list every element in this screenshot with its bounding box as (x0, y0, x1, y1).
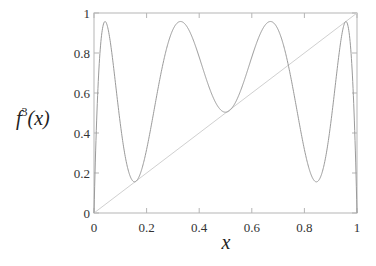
x-axis-ticks: 00.20.40.60.81 (91, 13, 361, 235)
y-tick-label: 0.8 (74, 46, 90, 61)
x-tick-label: 1 (354, 220, 361, 235)
identity-line (94, 13, 357, 213)
y-axis-label: f3(x) (16, 105, 50, 130)
x-axis-label: x (221, 231, 231, 253)
x-tick-label: 0 (91, 220, 98, 235)
x-tick-label: 0.2 (138, 220, 154, 235)
y-tick-label: 0.4 (74, 126, 91, 141)
y-axis-label-arg: (x) (28, 107, 51, 130)
y-tick-label: 0.2 (74, 166, 90, 181)
y-tick-label: 0.6 (74, 86, 91, 101)
y-tick-label: 0 (84, 206, 91, 221)
y-axis-ticks: 00.20.40.60.81 (74, 6, 357, 221)
f3-curve (94, 22, 357, 214)
x-tick-label: 0.8 (296, 220, 312, 235)
chart: 00.20.40.60.81 00.20.40.60.81 x f3(x) (0, 0, 376, 266)
y-tick-label: 1 (84, 6, 91, 21)
x-tick-label: 0.6 (244, 220, 261, 235)
x-tick-label: 0.4 (191, 220, 208, 235)
